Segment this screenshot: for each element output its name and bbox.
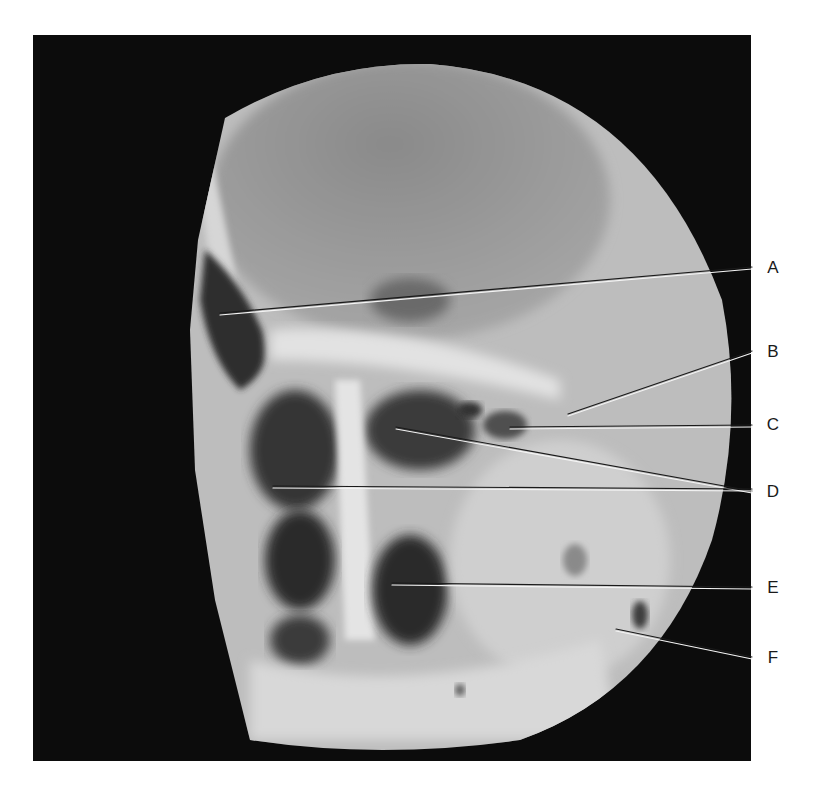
circular-field-of-view <box>150 50 770 770</box>
label-f: F <box>763 648 783 668</box>
xray-image <box>0 0 814 788</box>
label-b: B <box>763 342 783 362</box>
radiograph-figure: A B C D E F <box>0 0 814 788</box>
label-c: C <box>763 415 783 435</box>
label-a: A <box>763 258 783 278</box>
label-e: E <box>763 578 783 598</box>
label-d: D <box>763 482 783 502</box>
